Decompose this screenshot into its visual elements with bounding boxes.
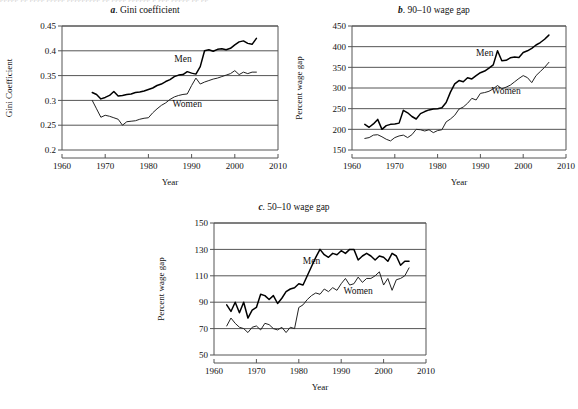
x-tick-label: 1960 [205, 366, 224, 376]
x-tick-label: 2000 [375, 366, 394, 376]
y-tick-label: 150 [195, 218, 209, 228]
y-tick-label: 130 [195, 245, 209, 255]
x-tick-label: 1990 [332, 366, 351, 376]
x-tick-label: 1990 [471, 161, 490, 171]
series-line-men [92, 38, 256, 99]
y-tick-label: 150 [333, 145, 347, 155]
y-tick-label: 0.35 [40, 71, 56, 81]
x-tick-label: 2010 [417, 366, 436, 376]
chart-b-title: b. 90–10 wage gap [290, 4, 578, 16]
chart-a-title: a. Gini coefficient [0, 4, 290, 16]
series-label-men: Men [174, 54, 192, 64]
y-tick-label: 300 [333, 83, 347, 93]
chart-panel-c: c. 50–10 wage gap 5070901101301501960197… [144, 201, 444, 407]
series-label-men: Men [303, 256, 321, 266]
chart-b-plot-area: 1502002503003504004501960197019801990200… [290, 16, 578, 198]
x-tick-label: 1990 [183, 161, 202, 171]
x-tick-label: 1970 [247, 366, 266, 376]
y-tick-label: 0.25 [40, 120, 56, 130]
x-tick-label: 1980 [290, 366, 309, 376]
chart-c-title-text: 50–10 wage gap [267, 202, 329, 212]
series-label-women: Women [173, 99, 203, 109]
chart-b-svg: 1502002503003504004501960197019801990200… [290, 16, 578, 198]
chart-c-title: c. 50–10 wage gap [144, 201, 444, 213]
x-tick-label: 1970 [96, 161, 115, 171]
y-tick-label: 0.3 [45, 96, 57, 106]
y-tick-label: 0.45 [40, 21, 56, 31]
x-tick-label: 1960 [343, 161, 362, 171]
y-axis-title: Percent wage gap [294, 56, 304, 120]
chart-panel-b: b. 90–10 wage gap 1502002503003504004501… [290, 4, 578, 200]
x-tick-label: 2010 [557, 161, 576, 171]
y-axis-title: Gini Coefficient [4, 58, 14, 117]
series-label-men: Men [476, 48, 494, 58]
chart-a-title-text: Gini coefficient [120, 5, 180, 15]
chart-b-title-text: 90–10 wage gap [408, 5, 470, 15]
chart-panel-a: a. Gini coefficient 0.20.250.30.350.40.4… [0, 4, 290, 200]
y-tick-label: 110 [195, 271, 209, 281]
x-tick-label: 1960 [53, 161, 72, 171]
chart-c-svg: 507090110130150196019701980199020002010Y… [144, 213, 444, 405]
y-tick-label: 400 [333, 42, 347, 52]
series-line-women [227, 268, 409, 333]
chart-a-plot-area: 0.20.250.30.350.40.451960197019801990200… [0, 16, 290, 198]
y-tick-label: 90 [199, 297, 209, 307]
x-axis-title: Year [451, 177, 468, 187]
y-tick-label: 0.2 [45, 145, 56, 155]
y-tick-label: 250 [333, 104, 347, 114]
chart-a-svg: 0.20.250.30.350.40.451960197019801990200… [0, 16, 290, 198]
y-tick-label: 50 [199, 350, 209, 360]
x-axis-title: Year [312, 382, 329, 392]
x-tick-label: 1980 [429, 161, 448, 171]
x-tick-label: 2000 [226, 161, 245, 171]
cut-off-text: ppppp pp pppp ppppp ppppppppp pp pppp pp… [0, 0, 578, 3]
series-line-men [365, 35, 549, 129]
x-tick-label: 2010 [269, 161, 288, 171]
x-tick-label: 1970 [386, 161, 405, 171]
x-tick-label: 1980 [139, 161, 158, 171]
chart-c-plot-area: 507090110130150196019701980199020002010Y… [144, 213, 444, 405]
y-tick-label: 200 [333, 125, 347, 135]
series-label-women: Women [491, 86, 521, 96]
series-label-women: Women [344, 286, 374, 296]
y-tick-label: 450 [333, 21, 347, 31]
y-axis-title: Percent wage gap [156, 257, 166, 321]
y-tick-label: 70 [199, 324, 209, 334]
x-tick-label: 2000 [514, 161, 533, 171]
y-tick-label: 350 [333, 63, 347, 73]
x-axis-title: Year [162, 177, 179, 187]
y-tick-label: 0.4 [45, 46, 57, 56]
